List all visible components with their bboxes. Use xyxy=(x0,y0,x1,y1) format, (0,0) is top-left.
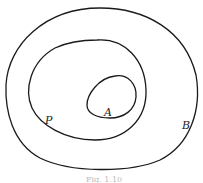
label-a: A xyxy=(103,106,112,119)
nested-regions-diagram: A P B Fig. 1.10 xyxy=(0,0,203,183)
label-p: P xyxy=(44,114,53,127)
figure-caption: Fig. 1.10 xyxy=(86,175,122,183)
outer-region-curve xyxy=(6,8,198,170)
label-b: B xyxy=(181,119,190,132)
